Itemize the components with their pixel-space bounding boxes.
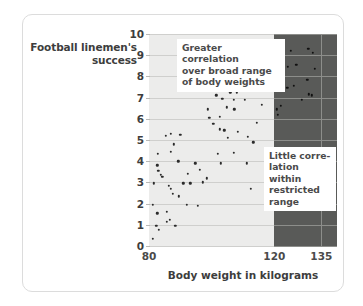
x-tick-label-80: 80 bbox=[142, 250, 157, 262]
data-point bbox=[152, 237, 154, 239]
data-point bbox=[194, 162, 196, 164]
data-point bbox=[207, 108, 209, 110]
gridline-y-4 bbox=[149, 161, 274, 162]
data-point bbox=[199, 168, 201, 170]
data-point bbox=[215, 94, 217, 96]
data-point bbox=[156, 164, 158, 166]
data-point bbox=[252, 141, 254, 143]
gridline-dark-y-5 bbox=[274, 140, 337, 141]
data-point bbox=[196, 205, 198, 207]
data-point bbox=[179, 133, 181, 135]
y-tick-label-10: 10 bbox=[124, 28, 144, 40]
y-tick-label-2: 2 bbox=[124, 198, 144, 210]
scatter-plot-area: Greater correlation over broad range of … bbox=[149, 34, 337, 246]
gridline-y-2 bbox=[149, 204, 274, 205]
y-tick-label-8: 8 bbox=[124, 70, 144, 82]
gridline-y-1 bbox=[149, 225, 274, 226]
data-point bbox=[243, 99, 245, 101]
y-tick-label-4: 4 bbox=[124, 155, 144, 167]
data-point bbox=[157, 153, 159, 155]
data-point bbox=[232, 99, 234, 101]
data-point bbox=[232, 152, 234, 154]
data-point bbox=[161, 176, 163, 178]
data-point bbox=[168, 184, 170, 186]
y-tick-mark-3 bbox=[146, 182, 150, 183]
gridline-dark-y-1 bbox=[274, 225, 337, 226]
x-tick-label-135: 135 bbox=[310, 250, 332, 262]
data-point bbox=[219, 128, 221, 130]
data-point bbox=[178, 195, 180, 197]
x-axis-title: Body weight in kilograms bbox=[149, 269, 337, 281]
data-point bbox=[157, 170, 159, 172]
gridline-y-7 bbox=[149, 98, 274, 99]
y-tick-mark-10 bbox=[146, 34, 150, 35]
gridline-vertical-135 bbox=[321, 34, 322, 246]
data-point bbox=[169, 132, 171, 134]
data-point bbox=[206, 177, 208, 179]
y-tick-label-7: 7 bbox=[124, 92, 144, 104]
data-point bbox=[217, 153, 219, 155]
data-point bbox=[164, 135, 166, 137]
data-point bbox=[165, 220, 167, 222]
y-tick-mark-1 bbox=[146, 225, 150, 226]
y-axis-title-line-2: success bbox=[29, 54, 137, 67]
data-point bbox=[226, 106, 228, 108]
y-tick-mark-5 bbox=[146, 140, 150, 141]
gridline-dark-y-0 bbox=[274, 246, 337, 247]
data-point bbox=[227, 137, 229, 139]
y-tick-mark-6 bbox=[146, 119, 150, 120]
gridline-y-0 bbox=[149, 246, 274, 247]
annotation-restricted-range: Little corre- lation within restricted r… bbox=[264, 147, 336, 211]
y-axis-title-line-1: Football linemen's bbox=[29, 41, 137, 54]
data-point bbox=[218, 115, 220, 117]
data-point bbox=[158, 229, 160, 231]
y-tick-label-1: 1 bbox=[124, 219, 144, 231]
y-tick-mark-4 bbox=[146, 161, 150, 162]
data-point bbox=[256, 122, 258, 124]
data-point bbox=[173, 143, 175, 145]
y-tick-mark-9 bbox=[146, 55, 150, 56]
y-tick-label-6: 6 bbox=[124, 113, 144, 125]
x-tick-label-120: 120 bbox=[263, 250, 285, 262]
data-point bbox=[186, 173, 188, 175]
gridline-y-3 bbox=[149, 182, 274, 183]
gridline-dark-y-6 bbox=[274, 119, 337, 120]
y-tick-label-5: 5 bbox=[124, 134, 144, 146]
gridline-y-5 bbox=[149, 140, 274, 141]
data-point bbox=[223, 129, 225, 131]
data-point bbox=[212, 123, 214, 125]
gridline-dark-y-10 bbox=[274, 34, 337, 35]
gridline-y-6 bbox=[149, 119, 274, 120]
data-point bbox=[170, 188, 172, 190]
data-point bbox=[170, 150, 172, 152]
y-tick-label-9: 9 bbox=[124, 49, 144, 61]
annotation-broad-range: Greater correlation over broad range of … bbox=[177, 39, 285, 92]
data-point bbox=[261, 104, 263, 106]
data-point bbox=[250, 188, 252, 190]
data-point bbox=[165, 211, 167, 213]
data-point bbox=[233, 108, 235, 110]
data-point bbox=[172, 193, 174, 195]
y-tick-label-3: 3 bbox=[124, 176, 144, 188]
data-point bbox=[156, 212, 158, 214]
y-tick-mark-7 bbox=[146, 98, 150, 99]
y-tick-mark-2 bbox=[146, 204, 150, 205]
y-tick-mark-8 bbox=[146, 76, 150, 77]
data-point bbox=[236, 130, 238, 132]
data-point bbox=[220, 162, 222, 164]
y-axis-title: Football linemen's success bbox=[29, 41, 137, 67]
gridline-y-10 bbox=[149, 34, 274, 35]
gridline-dark-y-7 bbox=[274, 98, 337, 99]
y-tick-mark-0 bbox=[146, 246, 150, 247]
data-point bbox=[246, 162, 248, 164]
data-point bbox=[246, 136, 248, 138]
data-point bbox=[168, 218, 170, 220]
figure-card: Football linemen's success Greater corre… bbox=[22, 14, 344, 292]
